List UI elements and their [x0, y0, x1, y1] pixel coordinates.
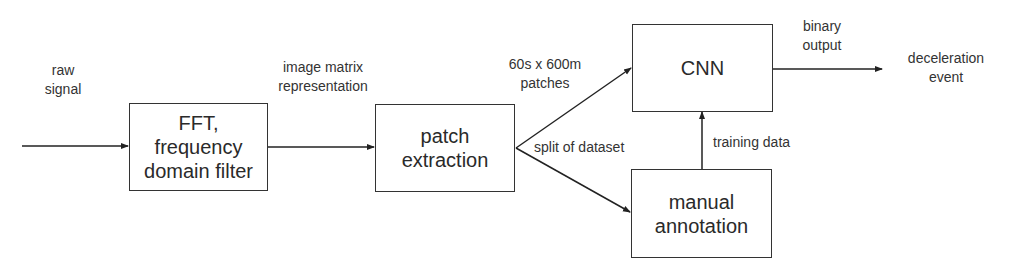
raw-signal-label: raw signal: [38, 61, 88, 99]
fft-label-2: frequency: [144, 135, 253, 159]
patch-extraction-box: patch extraction: [375, 104, 515, 192]
fft-label-3: domain filter: [144, 159, 253, 183]
manual-annotation-box: manual annotation: [631, 169, 772, 258]
patches-label: 60s x 600m patches: [490, 55, 600, 93]
training-data-label: training data: [713, 133, 790, 152]
patch-to-manual-arrow: [516, 148, 630, 212]
cnn-label: CNN: [681, 56, 724, 80]
patch-label-1: patch: [402, 124, 489, 148]
cnn-box: CNN: [632, 24, 773, 112]
binary-output-label: binary output: [790, 17, 854, 55]
deceleration-event-label: deceleration event: [898, 49, 994, 87]
fft-label-1: FFT,: [144, 111, 253, 135]
split-dataset-label: split of dataset: [534, 138, 624, 157]
fft-filter-box: FFT, frequency domain filter: [129, 103, 268, 191]
patch-label-2: extraction: [402, 148, 489, 172]
manual-label-2: annotation: [655, 214, 748, 238]
image-matrix-label: image matrix representation: [268, 58, 378, 96]
manual-label-1: manual: [655, 190, 748, 214]
